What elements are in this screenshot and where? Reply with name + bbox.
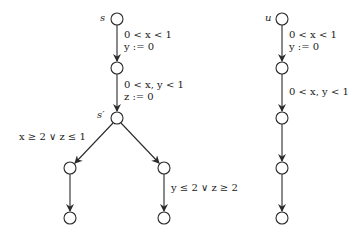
state-node: [276, 62, 288, 74]
edge-sprime-to-left: [75, 123, 113, 163]
edge-guard-label: 0 < x, y < 1: [124, 79, 184, 90]
state-node: [158, 212, 170, 224]
edge-guard-label: 0 < x < 1: [289, 29, 337, 40]
state-label-u: u: [265, 12, 271, 23]
state-node-s: [111, 13, 123, 25]
edge-guard-label: 0 < x, y < 1: [289, 86, 349, 97]
state-node: [276, 112, 288, 124]
state-label-s: s: [100, 12, 105, 23]
state-label-s-prime: s′: [97, 109, 105, 120]
branch-guard-right: y ≤ 2 ∨ z ≥ 2: [170, 182, 238, 193]
edge-reset-label: y := 0: [123, 41, 154, 52]
state-node: [111, 62, 123, 74]
edge-reset-label: z := 0: [124, 91, 154, 102]
edge-sprime-to-right: [121, 123, 159, 163]
branch-guard-left: x ≥ 2 ∨ z ≤ 1: [19, 131, 86, 142]
edge-reset-label: y := 0: [288, 41, 319, 52]
state-node: [64, 162, 76, 174]
state-node-u: [276, 13, 288, 25]
diagram-canvas: s 0 < x < 1 y := 0 0 < x, y < 1 z := 0 s…: [0, 0, 361, 237]
state-node: [276, 162, 288, 174]
state-node-s-prime: [111, 112, 123, 124]
state-node: [276, 212, 288, 224]
edge-guard-label: 0 < x < 1: [124, 29, 172, 40]
state-node: [64, 212, 76, 224]
state-node: [158, 162, 170, 174]
